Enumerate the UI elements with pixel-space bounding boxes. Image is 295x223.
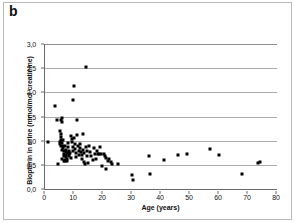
plot-area xyxy=(44,44,277,190)
x-tick-label: 80 xyxy=(272,194,279,201)
x-tick-mark xyxy=(276,191,277,194)
y-tick-label: 2,0 xyxy=(27,89,36,96)
x-tick-mark xyxy=(160,191,161,194)
x-tick-mark xyxy=(102,191,103,194)
x-tick-mark xyxy=(131,191,132,194)
gridline-y-1 xyxy=(45,141,277,142)
data-point xyxy=(148,172,151,175)
gridline-y-3 xyxy=(45,44,277,45)
data-point xyxy=(69,157,72,160)
data-point xyxy=(162,159,165,162)
data-point xyxy=(81,132,84,135)
x-tick-label: 50 xyxy=(185,194,192,201)
data-point xyxy=(46,141,49,144)
data-point xyxy=(101,165,104,168)
x-tick-mark xyxy=(189,191,190,194)
data-point xyxy=(53,105,56,108)
gridline-y-0-5 xyxy=(45,165,277,166)
data-point xyxy=(75,118,78,121)
data-point xyxy=(209,148,212,151)
data-point xyxy=(76,134,79,137)
data-point xyxy=(61,121,64,124)
y-tick-label: 0,5 xyxy=(27,161,36,168)
data-point xyxy=(116,162,119,165)
x-tick-label: 60 xyxy=(214,194,221,201)
x-axis-title: Age (years) xyxy=(44,204,277,211)
y-tick-label: 0,0 xyxy=(27,186,36,193)
x-tick-label: 40 xyxy=(156,194,163,201)
data-point xyxy=(218,154,221,157)
data-point xyxy=(86,162,89,165)
data-point xyxy=(131,173,134,176)
gridline-y-1-5 xyxy=(45,117,277,118)
x-tick-mark xyxy=(73,191,74,194)
data-point xyxy=(131,179,134,182)
x-tick-label: 20 xyxy=(98,194,105,201)
data-point xyxy=(110,163,113,166)
data-point xyxy=(186,153,189,156)
data-point xyxy=(55,118,58,121)
y-tick-label: 2,5 xyxy=(27,65,36,72)
data-point xyxy=(84,65,87,68)
x-tick-label: 10 xyxy=(69,194,76,201)
gridline-y-2-5 xyxy=(45,68,277,69)
data-point xyxy=(89,151,92,154)
data-point xyxy=(95,157,98,160)
data-point xyxy=(61,138,64,141)
data-point xyxy=(57,163,60,166)
x-tick-label: 30 xyxy=(127,194,134,201)
gridline-y-2 xyxy=(45,92,277,93)
data-point xyxy=(88,144,91,147)
data-point xyxy=(78,143,81,146)
panel-label: b xyxy=(9,4,18,18)
figure-panel-b: b Biopterin in urine (mmol/mol creatinin… xyxy=(0,0,295,223)
data-point xyxy=(177,153,180,156)
data-point xyxy=(105,168,108,171)
data-point xyxy=(71,99,74,102)
x-tick-mark xyxy=(218,191,219,194)
data-point xyxy=(60,117,63,120)
data-point xyxy=(66,160,69,163)
x-tick-mark xyxy=(44,191,45,194)
data-point xyxy=(73,84,76,87)
data-point xyxy=(258,160,261,163)
x-axis-ticks: 01020304050607080 xyxy=(44,191,277,205)
data-point xyxy=(148,154,151,157)
data-point xyxy=(99,145,102,148)
x-tick-label: 0 xyxy=(42,194,46,201)
data-point xyxy=(241,172,244,175)
y-axis-ticks: 0,00,51,01,52,02,53,0 xyxy=(0,44,40,190)
y-tick-label: 3,0 xyxy=(27,41,36,48)
data-point xyxy=(67,142,70,145)
y-tick-label: 1,5 xyxy=(27,113,36,120)
x-tick-mark xyxy=(247,191,248,194)
x-tick-label: 70 xyxy=(243,194,250,201)
data-point xyxy=(86,154,89,157)
y-tick-label: 1,0 xyxy=(27,137,36,144)
